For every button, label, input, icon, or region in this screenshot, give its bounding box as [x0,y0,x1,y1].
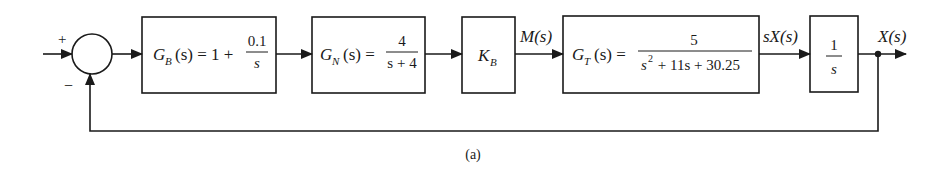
gn-name: G [320,45,332,64]
block-gb: G B (s) = 1 + 0.1 s [142,17,276,93]
gn-arg: (s) = [343,45,375,64]
signal-sx-label: sX(s) [763,27,798,46]
integrator-den: s [831,61,837,77]
gt-den-exp: 2 [648,53,653,64]
gt-den-s: s [641,57,647,73]
block-gn: G N (s) = 4 s + 4 [312,17,425,93]
gb-sub: B [165,55,172,67]
gn-num: 4 [398,33,406,49]
gt-num: 5 [690,32,698,48]
minus-sign: − [64,77,73,94]
summing-junction [72,34,112,74]
signal-x-label: X(s) [877,27,907,46]
kb-sub: B [490,56,497,68]
block-integrator: 1 s [810,16,858,92]
block-diagram: + − G B (s) = 1 + 0.1 s G N (s) = 4 s + … [0,0,945,176]
gt-arg: (s) = [594,45,626,64]
signal-m-label: M(s) [519,27,552,46]
gb-name: G [153,45,165,64]
figure-caption: (a) [465,147,481,163]
plus-sign: + [58,31,66,47]
gb-arg: (s) = 1 + [175,45,233,64]
gn-den: s + 4 [387,55,417,71]
gt-sub: T [584,55,591,67]
gb-den: s [254,55,260,71]
integrator-num: 1 [830,37,838,53]
gb-num: 0.1 [248,33,267,49]
block-kb: K B [462,17,515,93]
gt-name: G [572,45,584,64]
kb-name: K [477,46,491,65]
gn-sub: N [331,55,340,67]
gt-den-rest: + 11s + 30.25 [654,57,740,73]
block-gt: G T (s) = 5 s 2 + 11s + 30.25 [563,16,759,93]
